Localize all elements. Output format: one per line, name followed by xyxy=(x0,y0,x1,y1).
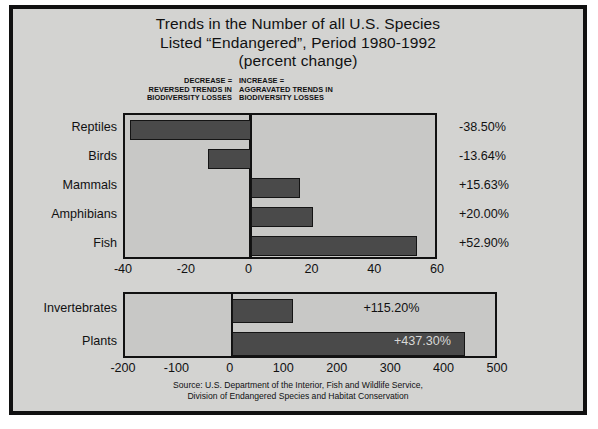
annotation-decrease: DECREASE = REVERSED TRENDS IN BIODIVERSI… xyxy=(117,77,232,103)
axis-tick-label: 300 xyxy=(360,361,420,375)
value-label: +20.00% xyxy=(459,207,509,221)
annotation-increase-line-3: BIODIVERSITY LOSSES xyxy=(239,94,389,103)
chart-panel-vertebrates: Reptiles-38.50%Birds-13.64%Mammals+15.63… xyxy=(13,113,583,265)
plot-area-vertebrates xyxy=(123,113,437,259)
axis-tick-label: 0 xyxy=(200,361,260,375)
source-line-1: Source: U.S. Department of the Interior,… xyxy=(13,380,583,390)
axis-tick-label: 0 xyxy=(219,262,279,276)
axis-tick-label: 20 xyxy=(281,262,341,276)
axis-tick-label: -100 xyxy=(146,361,206,375)
value-label: +437.30% xyxy=(386,334,460,348)
bar xyxy=(232,299,294,323)
chart-annotations: DECREASE = REVERSED TRENDS IN BIODIVERSI… xyxy=(123,77,423,111)
title-line-1: Trends in the Number of all U.S. Species xyxy=(13,15,583,34)
category-label: Invertebrates xyxy=(13,301,117,315)
source-line-2: Division of Endangered Species and Habit… xyxy=(13,391,583,401)
category-label: Plants xyxy=(13,334,117,348)
title-line-3: (percent change) xyxy=(13,52,583,71)
category-label: Mammals xyxy=(13,178,117,192)
axis-tick-label: 200 xyxy=(307,361,367,375)
axis-tick-label: -40 xyxy=(93,262,153,276)
chart-panel-invertebrates-plants: Invertebrates+115.20%Plants+437.30%-200-… xyxy=(13,292,583,364)
value-label: +115.20% xyxy=(363,301,419,315)
axis-tick-label: -20 xyxy=(156,262,216,276)
annotation-decrease-line-3: BIODIVERSITY LOSSES xyxy=(117,94,232,103)
bar xyxy=(251,207,314,227)
annotation-increase: INCREASE = AGGRAVATED TRENDS IN BIODIVER… xyxy=(239,77,389,103)
value-label: +52.90% xyxy=(459,236,509,250)
axis-tick-label: 500 xyxy=(467,361,527,375)
chart-title: Trends in the Number of all U.S. Species… xyxy=(13,15,583,71)
value-label: +15.63% xyxy=(459,178,509,192)
plot-area-invertebrates-plants xyxy=(123,292,497,358)
value-label: -13.64% xyxy=(459,149,506,163)
bar xyxy=(208,149,251,169)
axis-tick-label: 60 xyxy=(407,262,467,276)
bar xyxy=(251,236,417,256)
bar xyxy=(130,120,251,140)
value-label: -38.50% xyxy=(459,120,506,134)
chart-figure: Trends in the Number of all U.S. Species… xyxy=(9,5,587,415)
axis-tick-label: 40 xyxy=(344,262,404,276)
title-line-2: Listed “Endangered”, Period 1980-1992 xyxy=(13,34,583,53)
category-label: Fish xyxy=(13,236,117,250)
category-label: Birds xyxy=(13,149,117,163)
category-label: Reptiles xyxy=(13,120,117,134)
category-label: Amphibians xyxy=(13,207,117,221)
axis-tick-label: 400 xyxy=(414,361,474,375)
axis-tick-label: 100 xyxy=(253,361,313,375)
source-note: Source: U.S. Department of the Interior,… xyxy=(13,380,583,401)
bar xyxy=(251,178,300,198)
axis-tick-label: -200 xyxy=(93,361,153,375)
